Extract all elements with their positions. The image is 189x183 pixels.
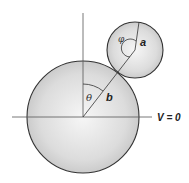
a-label: a (140, 36, 146, 48)
diagram-canvas: θ b φ a V = 0 (0, 0, 189, 183)
b-label: b (106, 91, 113, 103)
potential-label: V = 0 (157, 112, 181, 123)
phi-label: φ (118, 34, 125, 44)
theta-label: θ (86, 92, 92, 103)
